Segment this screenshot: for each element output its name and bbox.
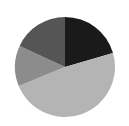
- pie-chart-canvas: [0, 0, 129, 126]
- pie-chart: [0, 0, 129, 126]
